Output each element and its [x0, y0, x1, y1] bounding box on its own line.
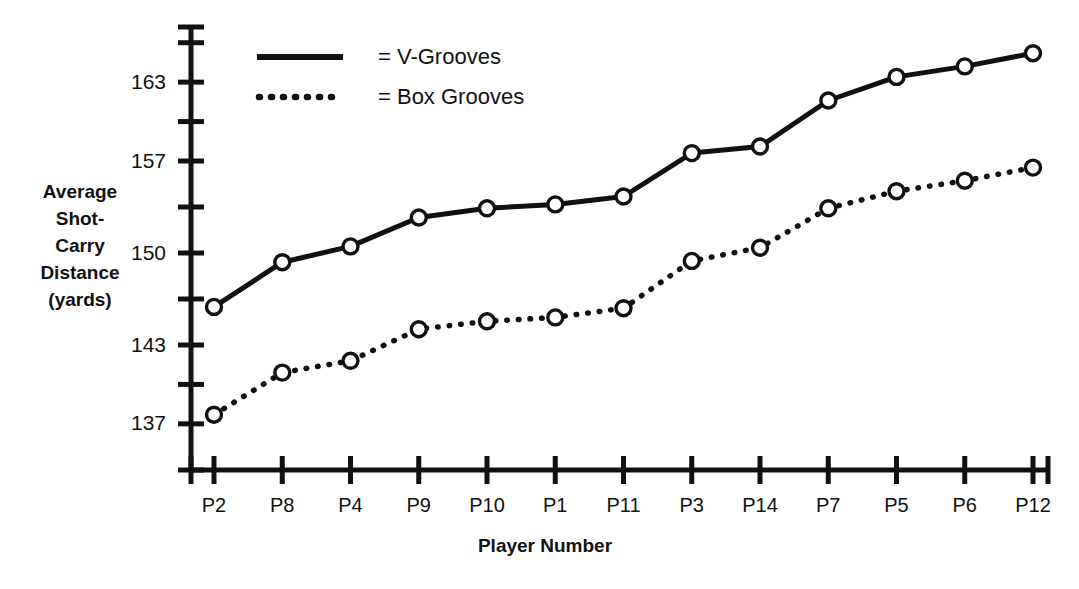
x-axis-tick-label: P2 [202, 494, 226, 516]
x-axis-tick-labels: P2P8P4P9P10P1P11P3P14P7P5P6P12 [202, 494, 1051, 516]
x-axis-tick-label: P14 [742, 494, 778, 516]
data-point-marker [684, 146, 699, 161]
y-axis-tick-label: 150 [131, 241, 166, 264]
y-axis-title-line-4: Distance [40, 262, 119, 283]
x-axis-tick-label: P5 [884, 494, 908, 516]
legend-label-box-grooves: = Box Grooves [378, 84, 524, 109]
y-axis-title: Average Shot- Carry Distance (yards) [40, 181, 119, 310]
data-point-marker [548, 310, 563, 325]
data-point-marker [753, 240, 768, 255]
data-point-marker [1026, 160, 1041, 175]
y-axis-title-line-3: Carry [55, 235, 105, 256]
legend: = V-Grooves = Box Grooves [257, 44, 524, 109]
legend-entry-v-grooves: = V-Grooves [257, 44, 501, 69]
x-axis-tick-label: P8 [270, 494, 294, 516]
series-layer [214, 53, 1033, 415]
data-point-marker [753, 139, 768, 154]
data-point-marker [957, 173, 972, 188]
y-axis-tick-label: 143 [131, 333, 166, 356]
data-point-marker [548, 197, 563, 212]
y-axis-tick-label: 163 [131, 70, 166, 93]
data-point-marker [480, 314, 495, 329]
y-axis-title-line-5: (yards) [48, 289, 111, 310]
y-axis-title-line-1: Average [43, 181, 117, 202]
x-axis-tick-label: P6 [953, 494, 977, 516]
y-axis-tick-label: 157 [131, 149, 166, 172]
x-axis-tick-label: P3 [680, 494, 704, 516]
x-axis-tick-label: P11 [606, 494, 640, 516]
y-axis-tick-labels: 163157150143137 [131, 70, 166, 435]
x-axis-tick-label: P9 [407, 494, 431, 516]
data-point-marker [480, 201, 495, 216]
data-point-marker [889, 69, 904, 84]
data-point-marker [411, 322, 426, 337]
line-chart: Average Shot- Carry Distance (yards) 163… [0, 0, 1079, 589]
data-point-marker [1026, 46, 1041, 61]
data-point-marker [616, 189, 631, 204]
axes [189, 27, 1048, 470]
data-point-marker [207, 407, 222, 422]
series-line-v-grooves [214, 53, 1033, 307]
data-point-marker [343, 353, 358, 368]
x-axis-tick-label: P7 [816, 494, 840, 516]
data-point-marker [684, 253, 699, 268]
legend-entry-box-grooves: = Box Grooves [259, 84, 524, 109]
chart-container: Average Shot- Carry Distance (yards) 163… [0, 0, 1079, 589]
data-point-marker [275, 255, 290, 270]
data-point-marker [957, 59, 972, 74]
x-axis-tick-label: P10 [469, 494, 505, 516]
x-axis-tick-label: P1 [543, 494, 567, 516]
x-axis-tick-label: P12 [1015, 494, 1051, 516]
data-point-marker [343, 239, 358, 254]
legend-label-v-grooves: = V-Grooves [378, 44, 501, 69]
x-axis-title: Player Number [478, 535, 613, 556]
x-axis-tick-label: P4 [338, 494, 362, 516]
y-axis-title-line-2: Shot- [56, 208, 105, 229]
y-axis-tick-label: 137 [131, 411, 166, 434]
data-point-marker [889, 184, 904, 199]
data-point-marker [207, 299, 222, 314]
data-point-marker [275, 365, 290, 380]
data-point-marker [616, 301, 631, 316]
data-point-marker [821, 93, 836, 108]
data-point-marker [821, 201, 836, 216]
data-point-marker [411, 210, 426, 225]
